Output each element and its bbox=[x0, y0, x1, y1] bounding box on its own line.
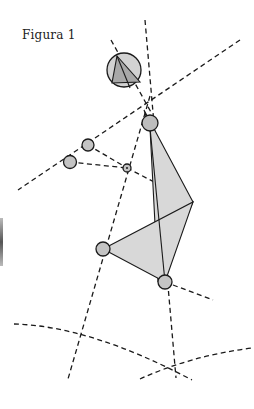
center-joint-dot bbox=[126, 167, 128, 169]
construction-arc-lower-left bbox=[14, 324, 192, 380]
shoulder-joint bbox=[142, 115, 158, 131]
construction-arc-lower-right bbox=[140, 348, 252, 379]
construction-line-foot-extension bbox=[165, 282, 213, 300]
upper-left-joint bbox=[82, 139, 94, 151]
leg-triangle bbox=[103, 202, 193, 282]
left-joint bbox=[64, 156, 77, 169]
foot-joint bbox=[158, 275, 172, 289]
knee-joint bbox=[96, 242, 110, 256]
geometric-figure-diagram bbox=[0, 0, 254, 409]
construction-line-arm-upper bbox=[88, 145, 127, 168]
